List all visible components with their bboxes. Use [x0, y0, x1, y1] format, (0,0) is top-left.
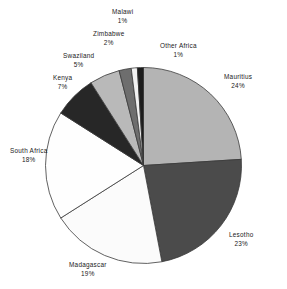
pie-label-name-lesotho: Lesotho [229, 231, 254, 240]
pie-label-value-swaziland: 5% [63, 61, 94, 70]
pie-label-other-africa: Other Africa1% [160, 42, 197, 59]
pie-label-zimbabwe: Zimbabwe2% [93, 30, 124, 47]
pie-label-name-swaziland: Swaziland [63, 52, 94, 61]
pie-slice-group [46, 67, 242, 263]
pie-label-value-lesotho: 23% [229, 240, 254, 249]
pie-label-name-mauritius: Mauritius [224, 73, 252, 82]
pie-label-value-kenya: 7% [53, 83, 72, 92]
pie-label-name-south-africa: South Africa [10, 147, 47, 156]
pie-label-mauritius: Mauritius24% [224, 73, 252, 90]
pie-label-value-madagascar: 19% [69, 270, 107, 279]
pie-label-malawi: Malawi1% [112, 8, 133, 25]
pie-label-south-africa: South Africa18% [10, 147, 47, 164]
pie-label-name-kenya: Kenya [53, 74, 72, 83]
pie-label-swaziland: Swaziland5% [63, 52, 94, 69]
pie-label-name-malawi: Malawi [112, 8, 133, 17]
pie-label-value-other-africa: 1% [160, 51, 197, 60]
pie-label-name-madagascar: Madagascar [69, 261, 107, 270]
pie-label-value-mauritius: 24% [224, 82, 252, 91]
pie-label-value-south-africa: 18% [10, 156, 47, 165]
pie-label-name-other-africa: Other Africa [160, 42, 197, 51]
pie-label-madagascar: Madagascar19% [69, 261, 107, 278]
pie-label-kenya: Kenya7% [53, 74, 72, 91]
pie-label-name-zimbabwe: Zimbabwe [93, 30, 124, 39]
pie-label-lesotho: Lesotho23% [229, 231, 254, 248]
pie-label-value-zimbabwe: 2% [93, 39, 124, 48]
pie-label-value-malawi: 1% [112, 17, 133, 26]
pie-chart-figure: Mauritius24%Lesotho23%Madagascar19%South… [0, 0, 287, 289]
